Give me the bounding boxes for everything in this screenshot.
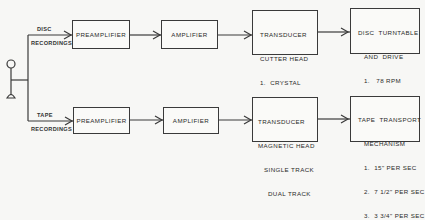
block-title: AMPLIFIER xyxy=(173,117,209,125)
block-item: SINGLE TRACK xyxy=(258,166,317,174)
block-item: DUAL TRACK xyxy=(258,190,317,198)
block-subtitle: AND DRIVE xyxy=(358,53,419,61)
tape-transport-block: TAPE TRANSPORT MECHANISM 1. 15" PER SEC … xyxy=(350,96,420,142)
tape-branch-sublabel: RECORDINGS xyxy=(31,126,72,132)
block-title: PREAMPLIFIER xyxy=(76,117,126,125)
disc-branch-sublabel: RECORDINGS xyxy=(31,40,72,46)
disc-transducer-block: TRANSDUCER CUTTER HEAD 1. CRYSTAL 2. MAG… xyxy=(252,10,318,55)
tape-branch-label: TAPE xyxy=(37,112,53,118)
block-title: TRANSDUCER xyxy=(260,31,317,39)
disc-turntable-block: DISC TURNTABLE AND DRIVE 1. 78 RPM 2. 33… xyxy=(350,8,420,54)
tape-amplifier-block: AMPLIFIER xyxy=(163,107,219,134)
block-item: 1. 15" PER SEC xyxy=(358,164,419,172)
block-item: 1. CRYSTAL xyxy=(260,79,317,87)
block-title: AMPLIFIER xyxy=(171,31,207,39)
block-item: 1. 78 RPM xyxy=(358,77,419,85)
block-title: TRANSDUCER xyxy=(258,118,317,126)
block-item: 3. 3 3/4" PER SEC xyxy=(358,212,419,220)
tape-preamplifier-block: PREAMPLIFIER xyxy=(73,107,130,134)
block-title: PREAMPLIFIER xyxy=(76,31,126,39)
block-subtitle: CUTTER HEAD xyxy=(260,55,317,63)
block-subtitle: MAGNETIC HEAD xyxy=(258,142,317,150)
block-subtitle: MECHANISM xyxy=(358,140,419,148)
disc-branch-label: DISC xyxy=(37,26,52,32)
microphone-icon xyxy=(7,60,15,68)
block-title: TAPE TRANSPORT xyxy=(358,116,419,124)
block-title: DISC TURNTABLE xyxy=(358,29,419,37)
tape-transducer-block: TRANSDUCER MAGNETIC HEAD SINGLE TRACK DU… xyxy=(252,97,318,142)
block-item: 2. 7 1/2" PER SEC xyxy=(358,188,419,196)
disc-amplifier-block: AMPLIFIER xyxy=(161,20,218,49)
disc-preamplifier-block: PREAMPLIFIER xyxy=(72,20,130,49)
